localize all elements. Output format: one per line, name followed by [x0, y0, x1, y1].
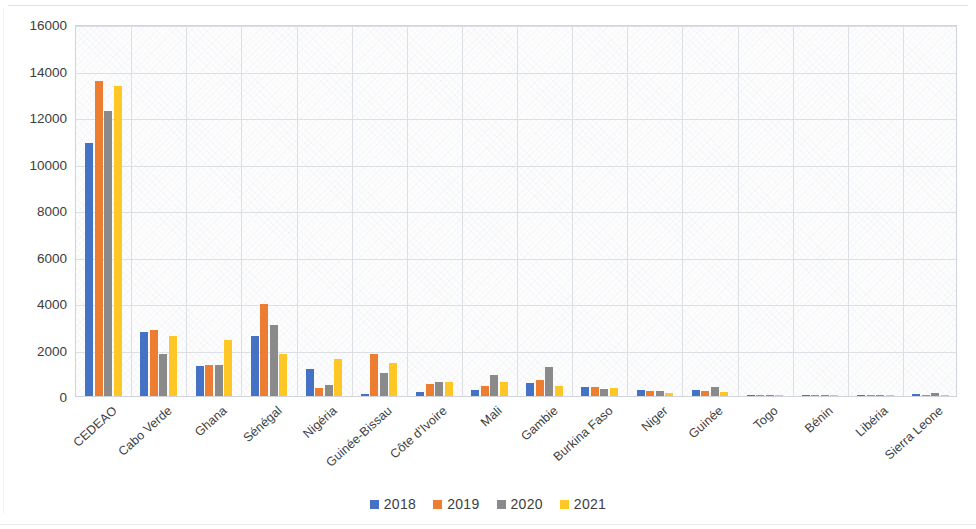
bar-2020 [435, 382, 443, 396]
y-axis-tick-label: 0 [0, 390, 67, 405]
legend-item-2021[interactable]: 2021 [560, 496, 606, 512]
bar-2019 [701, 391, 709, 396]
page-edge-top-rule [8, 5, 968, 6]
bar-2019 [260, 304, 268, 396]
bar-2020 [656, 391, 664, 396]
bar-2020 [325, 385, 333, 396]
chart-legend: 2018201920202021 [0, 496, 976, 512]
bar-2018 [361, 394, 369, 396]
y-axis-tick-label: 4000 [0, 297, 67, 312]
legend-label: 2021 [574, 496, 606, 512]
legend-swatch-icon [497, 500, 506, 509]
bar-2020 [711, 387, 719, 396]
bar-group [627, 26, 682, 396]
bar-2018 [526, 383, 534, 396]
bar-2020 [270, 325, 278, 396]
legend-label: 2020 [511, 496, 543, 512]
bar-group [462, 26, 517, 396]
bar-group [407, 26, 462, 396]
legend-swatch-icon [433, 500, 442, 509]
bar-2021 [114, 86, 122, 396]
bar-2019 [591, 387, 599, 396]
y-axis-tick-label: 12000 [0, 111, 67, 126]
bar-2019 [481, 386, 489, 396]
bar-2020 [600, 389, 608, 396]
bar-2019 [922, 395, 930, 397]
bar-2019 [867, 395, 875, 397]
bar-group [682, 26, 737, 396]
bar-2018 [857, 395, 865, 397]
legend-item-2020[interactable]: 2020 [497, 496, 543, 512]
bar-2020 [380, 373, 388, 396]
bar-2018 [416, 392, 424, 396]
bar-group [517, 26, 572, 396]
bar-2020 [766, 395, 774, 397]
bar-group [352, 26, 407, 396]
bar-2019 [646, 391, 654, 396]
bar-2019 [811, 395, 819, 397]
bar-2020 [821, 395, 829, 397]
bar-2020 [545, 367, 553, 396]
bar-group [903, 26, 957, 396]
bar-2019 [95, 81, 103, 396]
bar-2018 [85, 143, 93, 396]
bar-2021 [224, 340, 232, 396]
bar-2019 [370, 354, 378, 396]
bar-group [297, 26, 352, 396]
legend-label: 2018 [384, 496, 416, 512]
page-edge-bottom-rule [0, 524, 976, 525]
y-axis-tick-label: 2000 [0, 343, 67, 358]
bar-2020 [104, 111, 112, 396]
legend-item-2019[interactable]: 2019 [433, 496, 479, 512]
bar-2019 [536, 380, 544, 396]
bar-2018 [912, 394, 920, 396]
bar-2019 [426, 384, 434, 396]
y-axis-tick-label: 16000 [0, 18, 67, 33]
bar-chart: 0200040006000800010000120001400016000 CE… [0, 0, 976, 529]
bar-group [572, 26, 627, 396]
bar-group [738, 26, 793, 396]
bar-2018 [747, 395, 755, 397]
bar-2019 [756, 395, 764, 397]
bar-2018 [802, 395, 810, 397]
page-edge-left-rule [3, 8, 4, 513]
legend-swatch-icon [560, 500, 569, 509]
legend-item-2018[interactable]: 2018 [370, 496, 416, 512]
bar-2018 [692, 390, 700, 396]
bar-2019 [150, 330, 158, 396]
bar-2019 [315, 388, 323, 396]
bar-group [131, 26, 186, 396]
y-axis-tick-label: 8000 [0, 204, 67, 219]
bar-2020 [159, 354, 167, 396]
y-axis-tick-label: 10000 [0, 157, 67, 172]
bar-group [76, 26, 131, 396]
bar-group [848, 26, 903, 396]
legend-label: 2019 [447, 496, 479, 512]
bar-group [186, 26, 241, 396]
legend-swatch-icon [370, 500, 379, 509]
bar-2020 [876, 395, 884, 397]
bar-2020 [490, 375, 498, 396]
y-axis-tick-label: 6000 [0, 250, 67, 265]
bar-2020 [931, 393, 939, 396]
plot-area [75, 25, 957, 397]
bar-group [793, 26, 848, 396]
y-axis-tick-label: 14000 [0, 64, 67, 79]
bar-group [241, 26, 296, 396]
bar-2021 [169, 336, 177, 396]
